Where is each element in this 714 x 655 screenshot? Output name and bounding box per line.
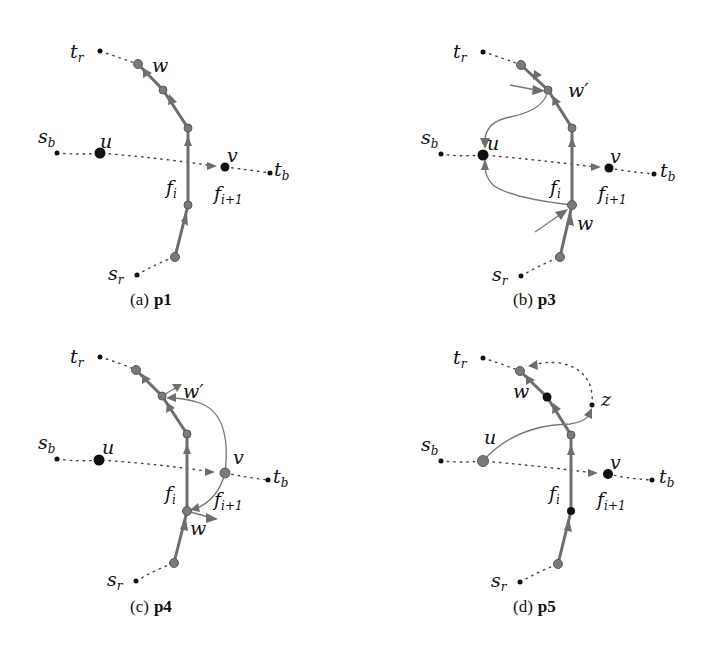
label-fi1: fi+1	[212, 488, 243, 513]
arrowhead-icon	[591, 163, 601, 171]
arrowhead-icon	[528, 360, 538, 370]
panel-b: tr w′ sb u v tb fi fi+1 w sr (b)p3	[421, 40, 675, 309]
node	[170, 559, 179, 568]
node	[568, 124, 576, 132]
label-w: w	[190, 517, 206, 539]
label-tr: tr	[70, 345, 85, 370]
label-fi: fi	[164, 176, 177, 201]
node	[517, 61, 526, 70]
label-fi1: fi+1	[212, 182, 243, 207]
label-wprime: w′	[183, 380, 204, 402]
arrowhead-icon	[555, 209, 568, 220]
arrowhead-icon	[481, 159, 489, 170]
label-sr: sr	[492, 263, 509, 288]
node	[184, 124, 192, 132]
panel-d: tr w z sb u v tb fi fi+1 sr (d)p5	[421, 346, 674, 616]
terminal-sr	[519, 274, 524, 279]
caption-a: (a)p1	[130, 290, 172, 309]
label-tr: tr	[453, 40, 468, 65]
terminal-sb	[55, 457, 60, 462]
red-path-dotted-bottom	[137, 257, 175, 275]
terminal-sb	[439, 152, 444, 157]
label-tb: tb	[274, 158, 289, 183]
label-sr: sr	[107, 568, 124, 593]
terminal-tr	[98, 49, 103, 54]
arrowhead-icon	[166, 393, 176, 402]
arrowhead-icon	[205, 468, 215, 476]
node-v	[220, 468, 230, 478]
blue-path-tail	[608, 474, 652, 480]
red-path-dotted-top	[100, 51, 138, 64]
label-v: v	[610, 451, 621, 473]
node	[554, 560, 563, 569]
node-w	[568, 201, 577, 210]
node	[183, 430, 191, 438]
label-fi: fi	[548, 176, 561, 201]
label-v: v	[227, 144, 238, 166]
node-w	[543, 393, 552, 402]
node	[567, 431, 575, 439]
red-path-dotted-top	[483, 52, 521, 65]
arrowhead-icon	[184, 136, 192, 146]
blue-path-tail	[609, 168, 654, 174]
figure-canvas: tr w sb u v tb fi fi+1 sr (a)p1	[0, 0, 714, 655]
label-tb: tb	[659, 465, 674, 490]
arrowhead-icon	[588, 469, 598, 477]
arrowhead-icon	[172, 384, 182, 392]
terminal-sr	[134, 579, 139, 584]
label-tb: tb	[660, 159, 675, 184]
label-w: w	[513, 380, 529, 402]
arrowhead-icon	[207, 162, 217, 170]
red-path-dotted-bottom	[520, 564, 558, 582]
node-wprime	[158, 392, 166, 400]
terminal-tr	[98, 355, 103, 360]
blue-path-tail	[225, 473, 268, 480]
arrowhead-icon	[206, 513, 218, 523]
red-path-dotted-bottom	[521, 257, 560, 276]
terminal-tr	[481, 356, 486, 361]
label-tr: tr	[70, 40, 85, 65]
caption-c: (c)p4	[130, 597, 172, 616]
label-tr: tr	[453, 346, 468, 371]
label-sb: sb	[421, 433, 438, 458]
caption-d: (d)p5	[513, 597, 556, 616]
label-tb: tb	[273, 465, 288, 490]
node	[171, 253, 180, 262]
panel-a: tr w sb u v tb fi fi+1 sr (a)p1	[38, 40, 289, 309]
node-z	[590, 403, 595, 408]
panel-c: tr w′ sb u v tb fi fi+1 w sr (c)p4	[38, 345, 288, 616]
node-wprime	[544, 86, 552, 94]
label-u: u	[102, 436, 114, 458]
arrowhead-icon	[183, 444, 191, 454]
label-sr: sr	[491, 569, 508, 594]
terminal-tr	[481, 50, 486, 55]
node	[184, 201, 192, 209]
node	[516, 367, 525, 376]
label-sr: sr	[108, 262, 125, 287]
dotted-z-to-w	[532, 362, 592, 405]
node-u	[478, 456, 489, 467]
label-v: v	[233, 446, 244, 468]
label-w: w	[152, 54, 168, 76]
curve-v-to-wprime	[170, 398, 226, 473]
label-u: u	[484, 426, 496, 448]
blue-path-dotted	[57, 153, 215, 166]
node-w	[183, 507, 192, 516]
red-path-dotted-top	[100, 357, 136, 370]
label-w: w	[577, 212, 593, 234]
label-v: v	[610, 145, 621, 167]
caption-b: (b)p3	[513, 290, 556, 309]
label-z: z	[600, 388, 612, 410]
terminal-tb	[650, 478, 655, 483]
label-u: u	[487, 132, 499, 154]
terminal-sr	[135, 273, 140, 278]
label-sb: sb	[421, 126, 438, 151]
label-u: u	[100, 130, 112, 152]
label-fi1: fi+1	[595, 488, 626, 513]
label-sb: sb	[38, 431, 55, 456]
arrowhead-icon	[567, 445, 575, 455]
node	[567, 507, 575, 515]
node	[556, 253, 565, 262]
red-path-dotted-bottom	[136, 563, 174, 581]
node	[159, 86, 167, 94]
